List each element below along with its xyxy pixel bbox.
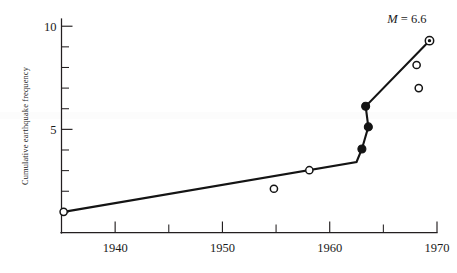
x-tick-label: 1960: [317, 241, 342, 255]
x-tick-label: 1950: [210, 241, 235, 255]
y-axis-title: Cumulative earthquake frequency: [21, 66, 30, 185]
y-tick-label: 5: [50, 123, 56, 137]
scan-artifact-band: [0, 112, 457, 119]
data-point-filled-circle: [364, 123, 372, 131]
earthquake-frequency-figure: 510 1940195019601970 Cumulative earthqua…: [0, 0, 457, 273]
magnitude-label: M = 6.6: [386, 12, 426, 26]
data-point-open-circle: [306, 167, 313, 174]
data-point-open-circle: [270, 185, 277, 192]
annotation-group: M = 6.6: [386, 12, 426, 26]
data-point-open-circle: [60, 208, 67, 215]
x-tick-label: 1970: [425, 241, 450, 255]
data-point-filled-circle: [358, 145, 366, 153]
y-tick-label: 10: [44, 20, 57, 34]
chart-canvas: 510 1940195019601970 Cumulative earthqua…: [0, 0, 457, 273]
data-point-target-circle-dot: [428, 39, 431, 42]
data-point-filled-circle: [362, 102, 370, 110]
x-tick-label: 1940: [103, 241, 128, 255]
data-point-open-circle: [415, 85, 422, 92]
data-point-open-circle: [413, 61, 420, 68]
